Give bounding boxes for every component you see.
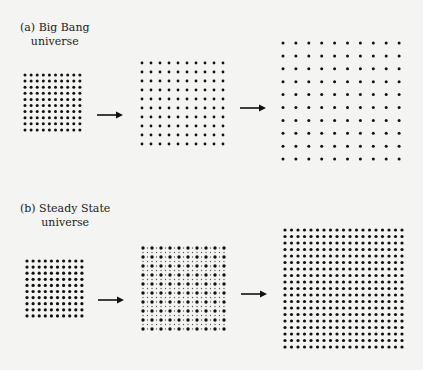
panel-b-arrow-icon-1 — [98, 297, 124, 304]
panel-a-grid-3 — [282, 42, 401, 161]
panel-a-arrow-icon-1 — [97, 112, 123, 119]
panel-b-grid-2 — [141, 246, 225, 330]
panel-a-grid-2 — [141, 62, 225, 146]
panel-a-grid-1 — [24, 74, 82, 132]
dot-grids-canvas — [0, 0, 423, 370]
panel-b-arrow-icon-2 — [241, 291, 267, 298]
cosmology-diagram: (a) Big Bang universe (b) Steady State u… — [0, 0, 423, 370]
panel-a-arrow-icon-2 — [240, 105, 266, 112]
panel-b-grid-3 — [283, 228, 403, 348]
panel-b-grid-1 — [25, 259, 83, 317]
